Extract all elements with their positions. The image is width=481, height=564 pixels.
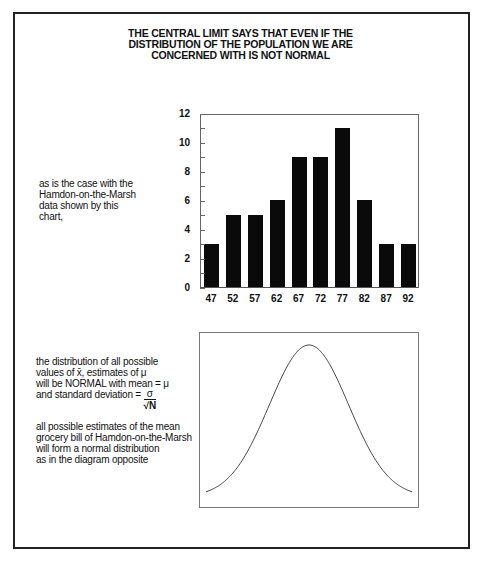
y-tick-mark: [200, 172, 205, 173]
x-tick-label: 72: [310, 293, 330, 304]
y-tick-mark: [200, 244, 205, 245]
note-conclusion: all possible estimates of the mean groce…: [36, 421, 192, 465]
y-tick-mark: [200, 288, 205, 289]
x-tick-label: 52: [223, 293, 243, 304]
note-line: all possible estimates of the mean: [36, 421, 192, 432]
x-tick-label: 87: [376, 293, 396, 304]
std-dev-label: and standard deviation =: [36, 389, 141, 400]
note-sampling-distribution: the distribution of all possible values …: [36, 356, 169, 411]
note-line: will form a normal distribution: [36, 443, 192, 454]
note-line: as in the diagram opposite: [36, 454, 192, 465]
y-tick-label: 12: [170, 108, 190, 119]
x-tick-label: 57: [245, 293, 265, 304]
y-tick-mark: [200, 186, 205, 187]
y-tick-mark: [200, 128, 205, 129]
note-line: grocery bill of Hamdon-on-the-Marsh: [36, 432, 192, 443]
histogram-bar: [204, 244, 219, 288]
y-tick-label: 10: [170, 137, 190, 148]
y-tick-mark: [200, 215, 205, 216]
histogram-bar: [292, 157, 307, 288]
histogram-bar: [226, 215, 241, 288]
x-tick-label: 92: [398, 293, 418, 304]
note-line: values of x̄, estimates of μ: [36, 367, 169, 378]
y-tick-label: 4: [170, 224, 190, 235]
x-tick-label: 67: [289, 293, 309, 304]
histogram-plot-area: [200, 114, 419, 288]
std-dev-formula: σ √N: [144, 389, 156, 411]
sqrt-n-symbol: √N: [144, 400, 156, 411]
note-line: and standard deviation = σ √N: [36, 389, 169, 411]
x-tick-label: 77: [332, 293, 352, 304]
note-line: the distribution of all possible: [36, 356, 169, 367]
histogram-bar: [357, 200, 372, 287]
y-tick-label: 2: [170, 253, 190, 264]
histogram-bar: [313, 157, 328, 288]
sigma-symbol: σ: [144, 389, 156, 400]
y-tick-label: 6: [170, 195, 190, 206]
histogram-bar: [248, 215, 263, 288]
y-tick-mark: [200, 230, 205, 231]
y-tick-label: 0: [170, 282, 190, 293]
histogram-bar: [270, 200, 285, 287]
x-tick-label: 82: [354, 293, 374, 304]
y-tick-label: 8: [170, 166, 190, 177]
bell-curve-icon: [200, 333, 418, 507]
y-tick-mark: [200, 259, 205, 260]
y-tick-mark: [200, 114, 205, 115]
x-tick-label: 62: [267, 293, 287, 304]
normal-curve-chart: [199, 332, 419, 508]
x-tick-label: 47: [201, 293, 221, 304]
y-tick-mark: [200, 157, 205, 158]
y-tick-mark: [200, 143, 205, 144]
y-tick-mark: [200, 201, 205, 202]
histogram-bar: [379, 244, 394, 288]
y-tick-mark: [200, 273, 205, 274]
histogram-bar: [335, 128, 350, 288]
histogram-bar: [401, 244, 416, 288]
